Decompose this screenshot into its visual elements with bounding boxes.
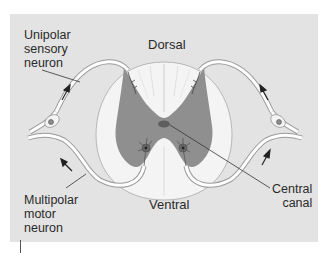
label-line: neuron <box>24 221 78 235</box>
multipolar-motor-neuron-label: Multipolar motor neuron <box>24 193 78 235</box>
label-line: Central <box>272 182 312 196</box>
label-line: sensory <box>24 42 71 56</box>
ventral-label: Ventral <box>149 198 189 212</box>
page-tick-mark <box>20 240 21 253</box>
label-line: Unipolar <box>24 28 71 42</box>
central-canal-label: Central canal <box>272 182 312 210</box>
label-line: motor <box>24 207 78 221</box>
label-line: neuron <box>24 56 71 70</box>
unipolar-sensory-neuron-label: Unipolar sensory neuron <box>24 28 71 70</box>
label-line: Multipolar <box>24 193 78 207</box>
label-line: canal <box>272 196 312 210</box>
dorsal-label: Dorsal <box>148 38 186 52</box>
sensory-leader-line <box>42 70 80 82</box>
motor-leader-line <box>66 174 86 188</box>
central-canal <box>158 121 170 128</box>
